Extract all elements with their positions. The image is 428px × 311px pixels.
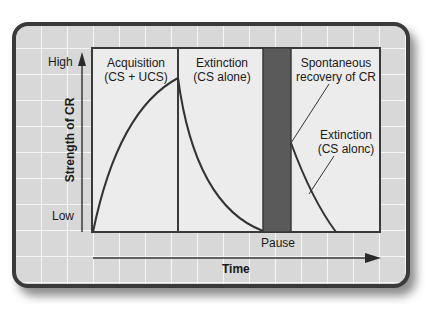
second-extinction-title: Extinction bbox=[314, 128, 378, 142]
y-low-label: Low bbox=[52, 209, 74, 223]
spontaneous-recovery-title: Spontaneous bbox=[293, 56, 379, 70]
y-axis-title: Strength of CR bbox=[63, 98, 77, 183]
spontaneous-recovery-label: Spontaneous recovery of CR bbox=[293, 56, 379, 84]
pause-bar bbox=[263, 48, 291, 232]
second-extinction-label: Extinction (CS alonc) bbox=[314, 128, 378, 156]
pause-label: Pause bbox=[257, 236, 299, 250]
time-axis-arrowhead-icon bbox=[365, 253, 381, 263]
y-high-label: High bbox=[48, 55, 73, 69]
second-extinction-subtitle: (CS alonc) bbox=[314, 142, 378, 156]
acquisition-subtitle: (CS + UCS) bbox=[97, 70, 175, 84]
y-axis-arrowhead-icon bbox=[78, 52, 86, 66]
extinction-label: Extinction (CS alone) bbox=[182, 56, 262, 84]
spontaneous-recovery-subtitle: recovery of CR bbox=[293, 70, 379, 84]
acquisition-label: Acquisition (CS + UCS) bbox=[97, 56, 175, 84]
extinction-title: Extinction bbox=[182, 56, 262, 70]
acquisition-title: Acquisition bbox=[97, 56, 175, 70]
extinction-subtitle: (CS alone) bbox=[182, 70, 262, 84]
time-axis-title: Time bbox=[222, 262, 250, 276]
